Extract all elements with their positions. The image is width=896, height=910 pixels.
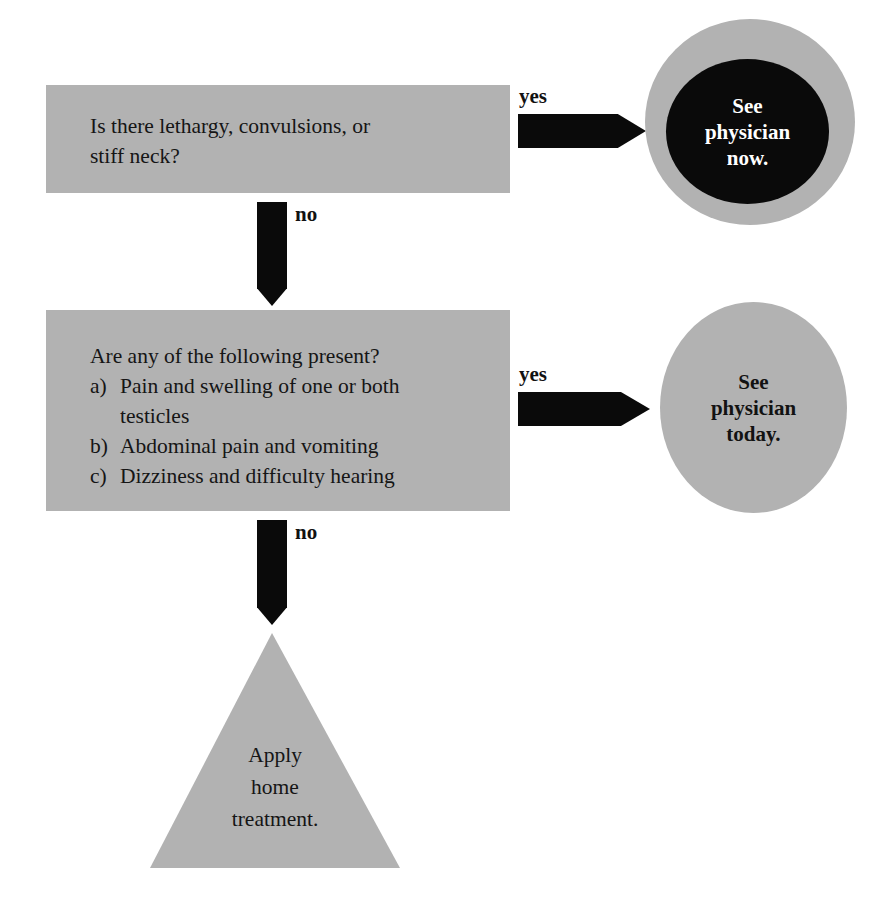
symptom-text-c: Dizziness and difficulty hearing — [120, 464, 395, 488]
outcome-home-line-1: Apply — [150, 739, 400, 771]
symptom-label-b: b) — [90, 431, 120, 461]
arrow-down-icon — [257, 202, 287, 306]
symptom-label-c: c) — [90, 461, 120, 491]
outcome-today-line-3: today. — [726, 422, 780, 446]
outcome-inner-disc: Seephysiciannow. — [666, 59, 829, 204]
symptom-item-c: c)Dizziness and difficulty hearing — [90, 461, 399, 491]
decision-2-prompt: Are any of the following present? — [90, 341, 399, 371]
outcome-home-line-3: treatment. — [150, 803, 400, 835]
decision-box-lethargy-text: Is there lethargy, convulsions, orstiff … — [90, 111, 370, 171]
symptom-item-a: a)Pain and swelling of one or both — [90, 371, 399, 401]
edge-label-no-2: no — [295, 521, 317, 543]
outcome-see-physician-today[interactable]: Seephysiciantoday. — [660, 302, 847, 513]
outcome-now-text: Seephysiciannow. — [705, 93, 790, 171]
outcome-today-text: Seephysiciantoday. — [711, 369, 796, 447]
symptom-item-b: b)Abdominal pain and vomiting — [90, 431, 399, 461]
outcome-home-text: Applyhometreatment. — [150, 739, 400, 835]
arrow-yes-2 — [518, 392, 650, 426]
symptom-cont-a: testicles — [90, 401, 399, 431]
decision-box-symptoms-text: Are any of the following present?a)Pain … — [90, 341, 399, 491]
arrow-right-icon — [518, 114, 646, 148]
symptom-label-a: a) — [90, 371, 120, 401]
outcome-home-line-2: home — [150, 771, 400, 803]
decision-1-line-1: Is there lethargy, convulsions, or — [90, 111, 370, 141]
outcome-today-line-1: See — [738, 370, 768, 394]
outcome-see-physician-now[interactable]: Seephysiciannow. — [645, 19, 855, 225]
symptom-text-b: Abdominal pain and vomiting — [120, 434, 379, 458]
outcome-now-line-3: now. — [727, 146, 768, 170]
outcome-apply-home-treatment[interactable]: Applyhometreatment. — [150, 633, 400, 868]
outcome-now-line-2: physician — [705, 120, 790, 144]
edge-label-yes-1: yes — [519, 85, 547, 107]
decision-box-lethargy[interactable]: Is there lethargy, convulsions, orstiff … — [46, 85, 510, 193]
outcome-now-line-1: See — [732, 94, 762, 118]
edge-label-yes-2: yes — [519, 363, 547, 385]
arrow-no-2 — [257, 520, 287, 625]
decision-box-symptoms[interactable]: Are any of the following present?a)Pain … — [46, 310, 510, 511]
decision-flowchart: Is there lethargy, convulsions, orstiff … — [0, 0, 896, 910]
outcome-today-line-2: physician — [711, 396, 796, 420]
edge-label-no-1: no — [295, 203, 317, 225]
arrow-no-1 — [257, 202, 287, 306]
symptom-text-a: Pain and swelling of one or both — [120, 374, 399, 398]
arrow-down-icon — [257, 520, 287, 625]
arrow-right-icon — [518, 392, 650, 426]
decision-1-line-2: stiff neck? — [90, 141, 370, 171]
arrow-yes-1 — [518, 114, 646, 148]
